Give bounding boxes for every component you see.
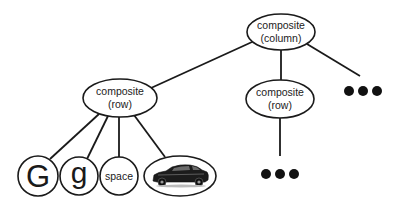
ellipsis-dot — [261, 169, 271, 179]
node-composite-row-left: composite (row) — [83, 79, 157, 117]
node-label-line2: (column) — [261, 32, 302, 44]
ellipsis-dot — [372, 86, 382, 96]
node-label-line2: (row) — [268, 99, 292, 111]
leaf-glyph-G: G — [18, 156, 58, 196]
node-composite-column: composite (column) — [247, 14, 315, 50]
ellipsis-dot — [358, 86, 368, 96]
node-composite-row-right: composite (row) — [246, 80, 314, 118]
ellipsis-dot — [289, 169, 299, 179]
edge-root-to-row-left — [151, 42, 252, 88]
node-label-line1: composite — [256, 86, 304, 98]
leaf-label: G — [26, 159, 50, 194]
leaf-glyph-g: g — [60, 156, 98, 195]
node-label-line2: (row) — [108, 98, 132, 110]
ellipsis-dot — [344, 86, 354, 96]
edge-row-to-G — [50, 114, 99, 159]
edge-root-to-more — [307, 44, 360, 76]
ellipsis-dot — [275, 169, 285, 179]
edge-row-to-car — [134, 115, 165, 157]
composite-tree-diagram: composite (column) composite (row) compo… — [0, 0, 394, 205]
leaf-space: space — [100, 157, 138, 195]
leaf-label: g — [71, 156, 88, 189]
node-label-line1: composite — [257, 19, 305, 31]
ellipsis-more-rows — [344, 86, 382, 96]
ellipsis-more-leaves — [261, 169, 299, 179]
node-label-line1: composite — [96, 85, 144, 97]
leaf-label: space — [105, 170, 133, 182]
leaf-car-image — [144, 156, 216, 196]
